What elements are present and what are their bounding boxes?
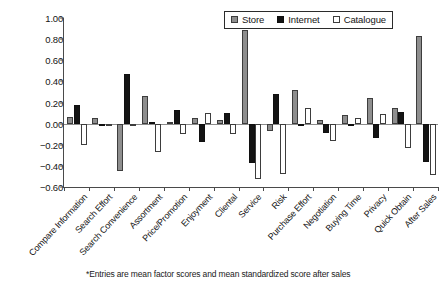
x-axis-tick-mark — [114, 187, 115, 191]
x-axis-tick-mark — [338, 187, 339, 191]
bar-store — [192, 118, 198, 123]
x-axis-label: Risk — [270, 192, 289, 211]
y-axis-tick-label: 0.00 — [0, 118, 68, 129]
bar-catalogue — [430, 124, 436, 176]
bar-catalogue — [130, 124, 136, 126]
y-axis-tick-mark — [60, 39, 64, 40]
y-axis-tick-mark — [60, 165, 64, 166]
bar-store — [392, 108, 398, 124]
x-axis-tick-mark — [239, 187, 240, 191]
x-axis-tick-mark — [413, 187, 414, 191]
bar-store — [92, 118, 98, 123]
bar-internet — [298, 124, 304, 126]
bar-catalogue — [405, 124, 411, 148]
x-axis-tick-mark — [89, 187, 90, 191]
bar-catalogue — [155, 124, 161, 153]
bar-catalogue — [380, 114, 386, 124]
x-axis-tick-mark — [388, 187, 389, 191]
x-axis-tick-mark — [313, 187, 314, 191]
bar-store — [117, 124, 123, 172]
bar-catalogue — [280, 124, 286, 175]
bar-internet — [74, 105, 80, 124]
bar-store — [416, 36, 422, 124]
bar-store — [167, 122, 173, 124]
x-axis-tick-mark — [363, 187, 364, 191]
y-axis-tick-label: 0.20 — [0, 97, 68, 108]
bar-store — [342, 115, 348, 123]
bar-internet — [273, 94, 279, 124]
bar-catalogue — [180, 124, 186, 135]
x-axis-tick-mark — [139, 187, 140, 191]
bar-internet — [348, 124, 354, 126]
bar-catalogue — [330, 124, 336, 141]
y-axis-tick-mark — [60, 102, 64, 103]
y-axis-tick-mark — [60, 18, 64, 19]
bar-catalogue — [305, 108, 311, 124]
bar-store — [317, 120, 323, 123]
x-axis-tick-mark — [288, 187, 289, 191]
x-axis-tick-mark — [214, 187, 215, 191]
bar-internet — [249, 124, 255, 163]
y-axis-tick-mark — [60, 123, 64, 124]
bar-chart: Store Internet Catalogue 1.000.800.600.4… — [0, 0, 447, 282]
bar-catalogue — [355, 118, 361, 123]
bar-internet — [323, 124, 329, 134]
x-axis-line — [63, 187, 438, 188]
x-axis-tick-mark — [64, 187, 65, 191]
x-axis-label: Cliental — [212, 192, 239, 220]
bar-internet — [124, 74, 130, 124]
plot-area — [64, 18, 438, 187]
bar-store — [292, 90, 298, 124]
y-axis-tick-label: −0.60 — [0, 182, 68, 193]
bar-catalogue — [106, 124, 112, 126]
y-axis-tick-label: −0.40 — [0, 160, 68, 171]
bar-catalogue — [230, 124, 236, 135]
bar-store — [267, 124, 273, 131]
x-axis-tick-mark — [189, 187, 190, 191]
bar-store — [242, 30, 248, 124]
bar-internet — [174, 110, 180, 124]
y-axis-tick-label: 0.80 — [0, 34, 68, 45]
y-axis-tick-mark — [60, 60, 64, 61]
y-axis-tick-mark — [60, 144, 64, 145]
bar-catalogue — [81, 124, 87, 145]
bar-internet — [423, 124, 429, 162]
bar-internet — [199, 124, 205, 142]
bar-store — [67, 117, 73, 123]
x-axis-label: Service — [237, 192, 264, 220]
bar-catalogue — [205, 113, 211, 124]
bar-store — [217, 120, 223, 123]
bar-internet — [149, 122, 155, 124]
bar-store — [142, 96, 148, 123]
x-axis-tick-mark — [263, 187, 264, 191]
bar-catalogue — [255, 124, 261, 179]
y-axis-tick-label: −0.20 — [0, 139, 68, 150]
y-axis-tick-label: 1.00 — [0, 13, 68, 24]
footnote-text: *Entries are mean factor scores and mean… — [86, 269, 350, 279]
bar-store — [367, 98, 373, 123]
x-axis-tick-mark — [438, 187, 439, 191]
y-axis-tick-mark — [60, 81, 64, 82]
bar-internet — [398, 112, 404, 124]
bar-internet — [99, 124, 105, 126]
bar-internet — [373, 124, 379, 139]
bar-internet — [224, 113, 230, 124]
x-axis-tick-mark — [164, 187, 165, 191]
chart-footnote: *Entries are mean factor scores and mean… — [86, 269, 350, 279]
y-axis-tick-label: 0.60 — [0, 55, 68, 66]
y-axis-tick-label: 0.40 — [0, 76, 68, 87]
